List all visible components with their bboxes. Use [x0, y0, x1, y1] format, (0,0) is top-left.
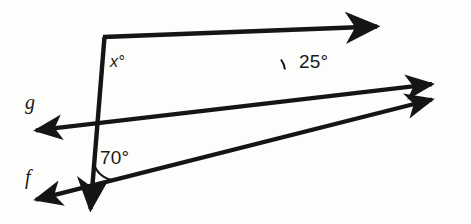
angle-label-25: 25°	[299, 52, 328, 71]
geometry-diagram: x° 25° 70° g f	[0, 0, 471, 224]
diagram-canvas	[0, 0, 471, 224]
angle-label-x: x°	[110, 54, 124, 70]
line-label-g: g	[25, 92, 35, 112]
line-label-f: f	[25, 167, 31, 187]
ray-apex-upper-right	[103, 27, 377, 38]
angle-arc-25	[281, 60, 285, 70]
angle-label-70: 70°	[100, 148, 129, 167]
